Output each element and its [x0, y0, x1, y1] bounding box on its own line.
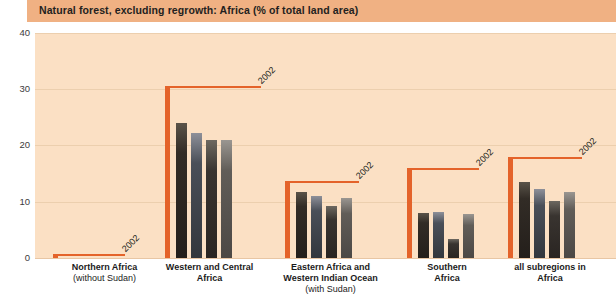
bar-ea-4 [341, 198, 352, 258]
plot-area: 2002 2002 2002 2002 [35, 33, 616, 258]
y-tick-40: 40 [0, 27, 30, 38]
bar-group-northern-africa: 2002 [53, 33, 145, 258]
series-2002-bar-2 [285, 181, 290, 258]
bar-wca-4 [221, 140, 232, 258]
chart-figure: Natural forest, excluding regrowth: Afri… [0, 0, 616, 305]
leader-line-4 [508, 157, 582, 159]
leader-line-1 [165, 86, 261, 88]
chart-title-band: Natural forest, excluding regrowth: Afri… [27, 0, 616, 22]
bar-wca-2 [191, 133, 202, 258]
x-label-eastern-africa-line1: Eastern Africa and [258, 262, 403, 273]
annotation-2002-3: 2002 [474, 147, 495, 168]
page-title: Natural forest, excluding regrowth: Afri… [39, 4, 358, 16]
x-axis-baseline [35, 258, 616, 259]
bar-sa-1 [418, 213, 429, 258]
x-label-western-central-africa: Western and Central Africa [147, 262, 272, 284]
y-tick-30: 30 [0, 83, 30, 94]
series-2002-bar-4 [508, 157, 513, 258]
annotation-2002-4: 2002 [577, 136, 598, 157]
y-axis: 40 30 20 10 0 [0, 0, 33, 305]
x-label-southern-africa-line1: Southern [392, 262, 502, 273]
x-label-all-subregions-line1: all subregions in [490, 262, 610, 273]
x-label-eastern-africa-line2: Western Indian Ocean [258, 273, 403, 284]
leader-line-0 [53, 254, 125, 256]
bar-ea-2 [311, 196, 322, 258]
bar-sa-3 [448, 239, 459, 258]
bar-group-southern-africa: 2002 [407, 33, 522, 258]
bar-group-western-central-africa: 2002 [165, 33, 280, 258]
x-label-southern-africa-line2: Africa [392, 273, 502, 284]
x-label-western-central-africa-line2: Africa [147, 273, 272, 284]
y-tick-10: 10 [0, 196, 30, 207]
bar-group-all-subregions: 2002 [508, 33, 616, 258]
y-tick-0: 0 [0, 252, 30, 263]
annotation-2002-0: 2002 [120, 233, 141, 254]
bar-wca-1 [176, 123, 187, 258]
bar-group-eastern-africa: 2002 [285, 33, 400, 258]
bar-wca-3 [206, 140, 217, 258]
series-2002-bar-3 [407, 168, 412, 258]
annotation-2002-1: 2002 [256, 65, 277, 86]
bar-ea-1 [296, 192, 307, 258]
bar-all-2 [534, 189, 545, 258]
bar-all-4 [564, 192, 575, 258]
leader-line-2 [285, 181, 359, 183]
bar-all-3 [549, 201, 560, 258]
leader-line-3 [407, 168, 479, 170]
bar-sa-4 [463, 214, 474, 258]
bar-ea-3 [326, 206, 337, 258]
annotation-2002-2: 2002 [354, 160, 375, 181]
x-label-all-subregions-line2: Africa [490, 273, 610, 284]
x-label-southern-africa: Southern Africa [392, 262, 502, 284]
series-2002-bar-1 [165, 86, 170, 258]
x-label-western-central-africa-line1: Western and Central [147, 262, 272, 273]
y-tick-20: 20 [0, 139, 30, 150]
x-label-eastern-africa-line3: (with Sudan) [258, 284, 403, 295]
x-label-all-subregions: all subregions in Africa [490, 262, 610, 284]
bar-sa-2 [433, 212, 444, 258]
x-label-eastern-africa: Eastern Africa and Western Indian Ocean … [258, 262, 403, 295]
bar-all-1 [519, 182, 530, 258]
